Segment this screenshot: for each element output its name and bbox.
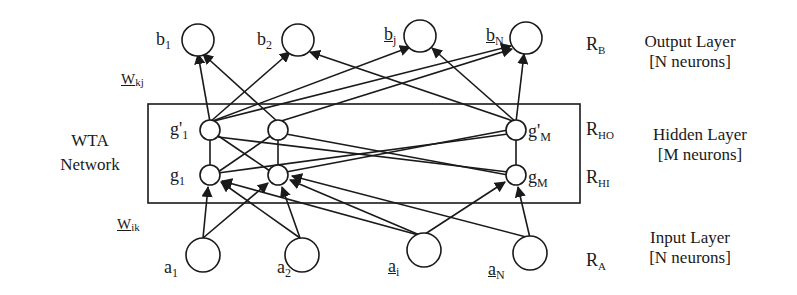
hidden-in-node-g2 — [268, 165, 288, 185]
label-bj: bj — [384, 25, 396, 43]
label-a2: a2 — [277, 258, 291, 276]
output-node-b1 — [182, 24, 214, 56]
input-node-ai — [407, 233, 441, 267]
label-b1: b1 — [156, 30, 171, 48]
label-bN: bN — [486, 26, 504, 44]
hidden-out-node-g2 — [268, 120, 288, 140]
hidden-out-node-gM — [506, 120, 526, 140]
label-ai: ai — [388, 257, 399, 275]
connections — [198, 46, 530, 238]
hidden-in-node-g1 — [200, 165, 220, 185]
output-layer-title: Output Layer [N neurons] — [635, 32, 745, 72]
output-node-b2 — [282, 24, 314, 56]
weight-label-wkj: Wkj — [121, 72, 144, 87]
label-gM: gM — [528, 168, 548, 186]
label-g-prime-M: g'M — [528, 122, 551, 140]
label-a1: a1 — [164, 258, 178, 276]
output-node-bN — [510, 22, 542, 54]
input-node-aN — [513, 236, 547, 270]
region-label-rho: RHO — [586, 120, 614, 138]
hidden-out-node-g1 — [200, 120, 220, 140]
label-g1: g1 — [170, 166, 185, 184]
label-b2: b2 — [257, 30, 272, 48]
label-aN: aN — [488, 260, 505, 278]
hidden-layer-title: Hidden Layer [M neurons] — [640, 125, 760, 165]
region-label-ra: RA — [586, 251, 606, 269]
input-node-a1 — [186, 238, 220, 272]
hidden-in-node-gM — [506, 165, 526, 185]
region-label-rb: RB — [586, 35, 605, 53]
region-label-rhi: RHI — [586, 168, 610, 186]
weight-label-wik: Wik — [117, 217, 140, 232]
input-layer-title: Input Layer [N neurons] — [635, 228, 745, 268]
label-g-prime-1: g'1 — [170, 120, 188, 138]
output-node-bj — [404, 20, 436, 52]
wta-network-label: WTA Network — [40, 129, 140, 177]
